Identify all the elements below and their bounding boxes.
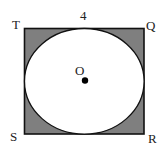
vertex-label-q: Q xyxy=(146,18,156,33)
center-point-o xyxy=(82,77,88,83)
center-label-o: O xyxy=(75,63,84,78)
side-length-label: 4 xyxy=(80,8,87,23)
square-circle-diagram: 4 T Q R S O xyxy=(0,0,164,151)
vertex-label-s: S xyxy=(10,129,17,144)
vertex-label-t: T xyxy=(12,17,20,32)
vertex-label-r: R xyxy=(148,131,157,146)
